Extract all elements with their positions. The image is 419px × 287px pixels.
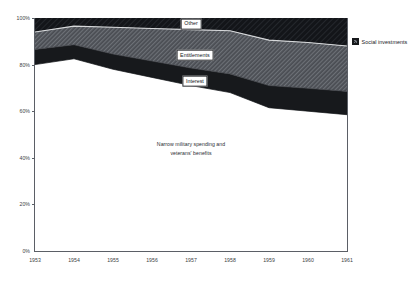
y-tick-label-20: 20% — [19, 201, 30, 207]
series-label-interest: Interest — [182, 76, 207, 87]
x-tick-label-1961: 1961 — [341, 257, 353, 263]
x-tick-label-1960: 1960 — [302, 257, 314, 263]
y-tick-mark-40 — [32, 111, 35, 112]
x-tick-label-1954: 1954 — [68, 257, 80, 263]
x-tick-label-1953: 1953 — [29, 257, 41, 263]
legend-label-social-investments: Social investments — [362, 39, 408, 45]
y-tick-label-40: 40% — [19, 155, 30, 161]
military-annotation-line2: veterans' benefits — [157, 148, 225, 156]
y-tick-label-60: 60% — [19, 108, 30, 114]
stacked-area-chart: 0% 20% 40% 60% 80% 100% 1953195419551956… — [0, 0, 419, 287]
y-tick-label-0: 0% — [22, 248, 30, 254]
x-tick-label-1956: 1956 — [146, 257, 158, 263]
plot-area: 0% 20% 40% 60% 80% 100% 1953195419551956… — [34, 18, 348, 252]
y-tick-label-80: 80% — [19, 62, 30, 68]
y-tick-mark-60 — [32, 158, 35, 159]
y-tick-mark-20 — [32, 65, 35, 66]
x-tick-label-1958: 1958 — [224, 257, 236, 263]
military-annotation: Narrow military spending and veterans' b… — [157, 140, 225, 156]
x-tick-label-1955: 1955 — [107, 257, 119, 263]
x-tick-label-1957: 1957 — [185, 257, 197, 263]
y-tick-label-100: 100% — [17, 15, 30, 21]
series-label-entitlements: Entitlements — [176, 50, 213, 61]
y-tick-mark-100 — [32, 18, 35, 19]
y-tick-mark-80 — [32, 204, 35, 205]
y-tick-0: 0% — [22, 248, 35, 254]
x-tick-label-1959: 1959 — [263, 257, 275, 263]
series-label-other: Other — [181, 18, 202, 29]
military-annotation-line1: Narrow military spending and — [157, 140, 225, 148]
legend-swatch-icon — [352, 38, 359, 45]
legend: Social investments — [352, 38, 407, 45]
